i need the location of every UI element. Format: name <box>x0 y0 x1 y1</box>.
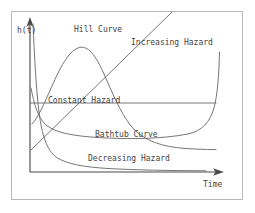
label-hill-curve: Hill Curve <box>74 25 122 34</box>
label-decreasing-hazard: Decreasing Hazard <box>88 154 170 163</box>
label-constant-hazard: Constant Hazard <box>48 96 120 105</box>
label-increasing-hazard: Increasing Hazard <box>131 38 213 47</box>
y-axis-label: h(t) <box>17 26 36 35</box>
label-bathtub-curve: Bathtub Curve <box>95 130 158 139</box>
hazard-curves-figure: h(t) Hill Curve Increasing Hazard Consta… <box>0 0 255 213</box>
x-axis-label: Time <box>203 180 222 189</box>
